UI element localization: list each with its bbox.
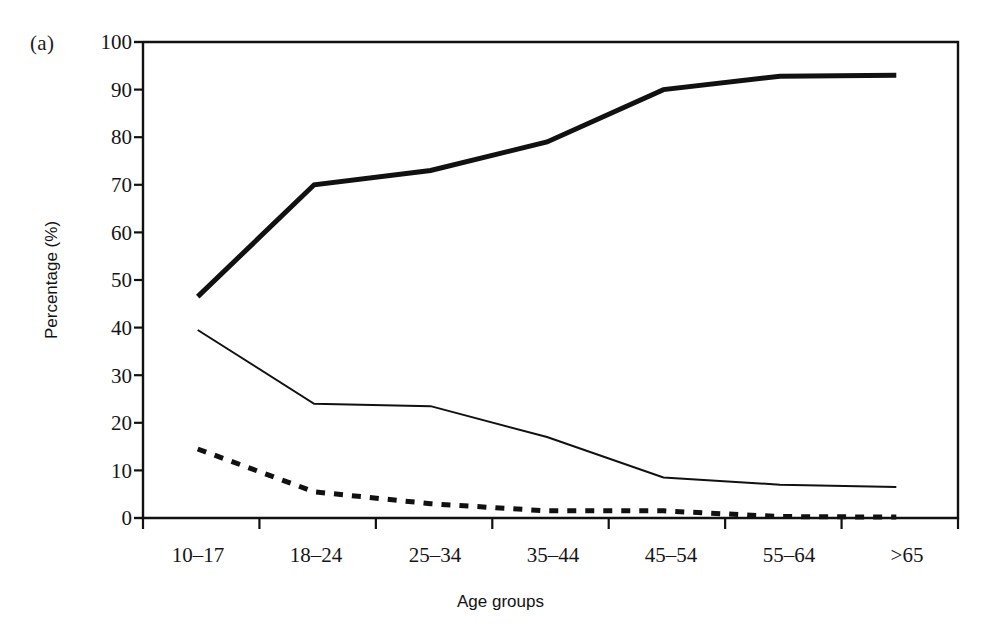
plot-frame <box>143 42 958 518</box>
dashed-line-series <box>198 449 897 517</box>
thick-line-series <box>198 75 897 296</box>
data-series-layer <box>198 75 897 517</box>
chart-plot <box>0 0 1001 637</box>
thin-line-series <box>198 330 897 487</box>
y-axis-ticks <box>134 42 143 518</box>
x-axis-ticks <box>143 518 958 529</box>
figure-panel: (a) Percentage (%) Age groups 100 90 80 … <box>0 0 1001 637</box>
axes-frame <box>143 42 958 518</box>
